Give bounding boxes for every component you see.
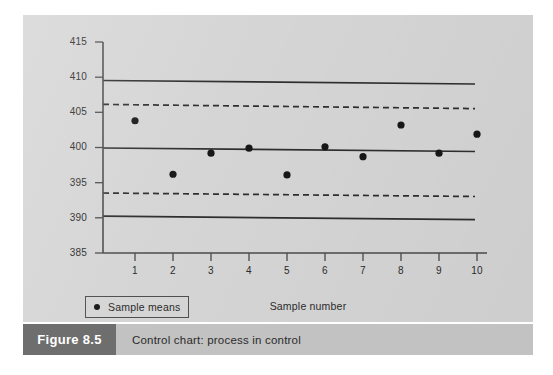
data-point xyxy=(435,150,442,157)
data-point xyxy=(207,150,214,157)
x-axis-title: Sample number xyxy=(238,300,378,312)
x-tick-label-4: 4 xyxy=(238,265,260,276)
figure-caption-text-block: Control chart: process in control xyxy=(116,324,533,355)
x-tick-label-8: 8 xyxy=(390,265,412,276)
data-points-group xyxy=(131,117,480,178)
figure-control-chart: 415 410 405 400 395 390 385 1 2 3 4 5 6 … xyxy=(0,0,553,375)
figure-number-block: Figure 8.5 xyxy=(23,324,116,355)
y-tick-label-400: 400 xyxy=(61,141,87,152)
data-point xyxy=(359,153,366,160)
data-point xyxy=(131,117,138,124)
lower-action-limit-line xyxy=(103,216,475,220)
upper-warning-limit-line xyxy=(103,104,475,108)
y-tick-label-385: 385 xyxy=(61,247,87,258)
x-tick-label-5: 5 xyxy=(276,265,298,276)
figure-caption-text: Control chart: process in control xyxy=(132,334,301,346)
data-point xyxy=(473,131,480,138)
x-tick-label-6: 6 xyxy=(314,265,336,276)
chart-panel: 415 410 405 400 395 390 385 1 2 3 4 5 6 … xyxy=(23,15,533,322)
x-tick-label-9: 9 xyxy=(428,265,450,276)
y-tick-label-405: 405 xyxy=(61,106,87,117)
y-tick-label-410: 410 xyxy=(61,71,87,82)
x-tick-label-7: 7 xyxy=(352,265,374,276)
x-tick-label-3: 3 xyxy=(200,265,222,276)
legend: Sample means xyxy=(85,296,189,318)
centre-line xyxy=(103,148,475,152)
y-tick-label-395: 395 xyxy=(61,177,87,188)
figure-caption-bar: Figure 8.5 Control chart: process in con… xyxy=(23,324,533,355)
figure-number: Figure 8.5 xyxy=(37,332,101,347)
x-tick-label-10: 10 xyxy=(466,265,488,276)
data-point xyxy=(283,171,290,178)
data-point xyxy=(397,121,404,128)
filled-circle-icon xyxy=(94,304,100,310)
x-tick-label-2: 2 xyxy=(162,265,184,276)
x-tick-label-1: 1 xyxy=(124,265,146,276)
y-tick-label-415: 415 xyxy=(61,36,87,47)
data-point xyxy=(245,145,252,152)
data-point xyxy=(321,143,328,150)
y-tick-label-390: 390 xyxy=(61,212,87,223)
upper-action-limit-line xyxy=(103,81,475,85)
legend-label: Sample means xyxy=(108,301,180,313)
lower-warning-limit-line xyxy=(103,193,475,197)
data-point xyxy=(169,171,176,178)
